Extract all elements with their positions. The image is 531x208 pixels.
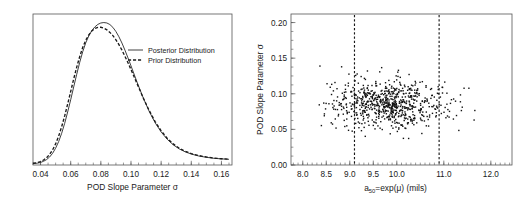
right-x-ticklabel: 10.0 <box>389 170 405 179</box>
scatter-point <box>344 96 345 97</box>
scatter-point <box>447 115 448 116</box>
left-curve-posterior <box>33 23 229 164</box>
scatter-point <box>364 94 365 95</box>
scatter-point <box>379 127 380 128</box>
scatter-point <box>405 108 406 109</box>
scatter-point <box>391 87 392 88</box>
scatter-point <box>346 125 347 126</box>
scatter-point <box>460 101 461 102</box>
scatter-point <box>395 94 396 95</box>
scatter-point <box>380 101 381 102</box>
scatter-point <box>405 96 406 97</box>
scatter-point <box>363 110 364 111</box>
scatter-point <box>394 96 395 97</box>
scatter-point <box>437 86 438 87</box>
scatter-point <box>409 92 410 93</box>
scatter-point <box>351 105 352 106</box>
scatter-point <box>370 101 371 102</box>
scatter-point <box>356 107 357 108</box>
left-legend: Posterior DistributionPrior Distribution <box>128 46 215 65</box>
scatter-point <box>360 76 361 77</box>
scatter-point <box>425 87 426 88</box>
scatter-point <box>394 116 395 117</box>
scatter-point <box>402 110 403 111</box>
scatter-point <box>331 94 332 95</box>
scatter-point <box>348 73 349 74</box>
scatter-point <box>360 113 361 114</box>
scatter-point <box>355 123 356 124</box>
scatter-point <box>403 138 404 139</box>
scatter-point <box>384 97 385 98</box>
scatter-point <box>338 104 339 105</box>
scatter-point <box>393 117 394 118</box>
scatter-point <box>385 102 386 103</box>
scatter-point <box>403 114 404 115</box>
scatter-point <box>344 120 345 121</box>
right-x-ticklabel: 8.0 <box>297 170 309 179</box>
scatter-point <box>404 120 405 121</box>
scatter-point <box>387 110 388 111</box>
scatter-point <box>362 96 363 97</box>
scatter-point <box>325 108 326 109</box>
scatter-point <box>341 109 342 110</box>
scatter-point <box>356 102 357 103</box>
scatter-point <box>346 103 347 104</box>
scatter-point <box>363 127 364 128</box>
scatter-point <box>361 123 362 124</box>
scatter-point <box>396 107 397 108</box>
scatter-point <box>399 111 400 112</box>
scatter-point <box>358 121 359 122</box>
scatter-point <box>360 98 361 99</box>
scatter-point <box>364 92 365 93</box>
scatter-point <box>440 105 441 106</box>
scatter-point <box>380 121 381 122</box>
scatter-point <box>436 107 437 108</box>
scatter-point <box>387 98 388 99</box>
scatter-point <box>412 106 413 107</box>
scatter-point <box>347 113 348 114</box>
scatter-point <box>361 100 362 101</box>
scatter-point <box>342 99 343 100</box>
scatter-point <box>367 92 368 93</box>
scatter-point <box>395 97 396 98</box>
scatter-point <box>363 105 364 106</box>
scatter-point <box>436 115 437 116</box>
scatter-point <box>332 123 333 124</box>
scatter-point <box>362 103 363 104</box>
left-x-ticklabel: 0.06 <box>63 170 79 179</box>
scatter-point <box>346 98 347 99</box>
scatter-point <box>405 113 406 114</box>
scatter-point <box>356 73 357 74</box>
scatter-point <box>391 96 392 97</box>
scatter-point <box>336 88 337 89</box>
scatter-point <box>398 96 399 97</box>
scatter-point <box>395 114 396 115</box>
scatter-point <box>392 114 393 115</box>
scatter-point <box>355 75 356 76</box>
scatter-point <box>398 92 399 93</box>
scatter-point <box>453 118 454 119</box>
scatter-point <box>365 136 366 137</box>
scatter-point <box>357 118 358 119</box>
scatter-point <box>357 100 358 101</box>
scatter-point <box>426 111 427 112</box>
scatter-point <box>460 94 461 95</box>
scatter-point <box>391 110 392 111</box>
left-plot-frame <box>33 14 232 165</box>
scatter-point <box>400 102 401 103</box>
scatter-point <box>376 85 377 86</box>
scatter-point <box>402 90 403 91</box>
scatter-point <box>396 88 397 89</box>
scatter-point <box>331 84 332 85</box>
scatter-point <box>410 120 411 121</box>
scatter-point <box>436 100 437 101</box>
scatter-point <box>348 83 349 84</box>
scatter-point <box>400 106 401 107</box>
scatter-point <box>415 93 416 94</box>
scatter-point <box>427 119 428 120</box>
scatter-point <box>379 114 380 115</box>
scatter-point <box>416 96 417 97</box>
scatter-point <box>396 104 397 105</box>
scatter-point <box>368 105 369 106</box>
scatter-point <box>395 101 396 102</box>
